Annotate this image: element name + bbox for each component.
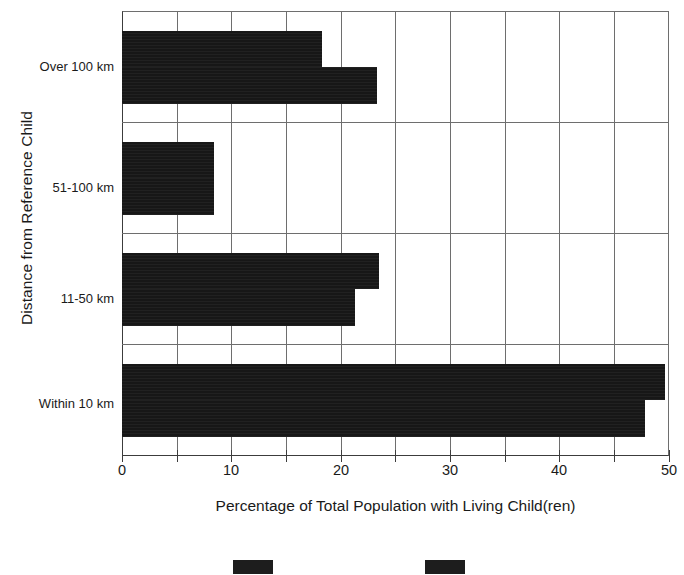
xtick-35 bbox=[505, 450, 506, 462]
plot-area bbox=[122, 11, 669, 456]
bar-within-10-km-series-2 bbox=[122, 400, 645, 437]
xtick-10 bbox=[231, 450, 232, 462]
bar-51-100-km-series-1 bbox=[122, 142, 214, 178]
bar-11-50-km-series-1 bbox=[122, 253, 379, 289]
category-label-11-50-km: 11-50 km bbox=[4, 291, 114, 306]
gridline-category-1 bbox=[122, 122, 669, 123]
xtick-40 bbox=[559, 450, 560, 462]
bar-over-100-km-series-1 bbox=[122, 31, 322, 67]
xtick-50 bbox=[669, 450, 670, 462]
bar-11-50-km-series-2 bbox=[122, 289, 355, 326]
xtick-0 bbox=[122, 450, 123, 462]
bar-51-100-km-series-2 bbox=[122, 178, 214, 215]
xtick-30 bbox=[450, 450, 451, 462]
xtick-label-40: 40 bbox=[529, 462, 589, 478]
xtick-label-30: 30 bbox=[420, 462, 480, 478]
category-axis-labels: Over 100 km 51-100 km 11-50 km Within 10… bbox=[2, 11, 114, 456]
xtick-label-50: 50 bbox=[639, 462, 684, 478]
xtick-label-10: 10 bbox=[201, 462, 261, 478]
xtick-label-0: 0 bbox=[92, 462, 152, 478]
bar-within-10-km-series-1 bbox=[122, 364, 665, 400]
category-label-over-100-km: Over 100 km bbox=[4, 59, 114, 74]
xtick-15 bbox=[286, 450, 287, 462]
legend-swatch-series-2 bbox=[425, 560, 465, 574]
xtick-label-20: 20 bbox=[311, 462, 371, 478]
legend bbox=[0, 560, 684, 575]
category-label-51-100-km: 51-100 km bbox=[4, 180, 114, 195]
xtick-20 bbox=[341, 450, 342, 462]
gridline-category-2 bbox=[122, 233, 669, 234]
legend-swatch-series-1 bbox=[233, 560, 273, 574]
bar-over-100-km-series-2 bbox=[122, 67, 377, 104]
bar-chart: Distance from Reference Child Over 100 k… bbox=[0, 0, 684, 575]
xtick-25 bbox=[395, 450, 396, 462]
gridline-category-3 bbox=[122, 344, 669, 345]
x-axis-title: Percentage of Total Population with Livi… bbox=[122, 494, 669, 518]
category-label-within-10-km: Within 10 km bbox=[4, 396, 114, 411]
xtick-5 bbox=[177, 450, 178, 462]
xtick-45 bbox=[614, 450, 615, 462]
